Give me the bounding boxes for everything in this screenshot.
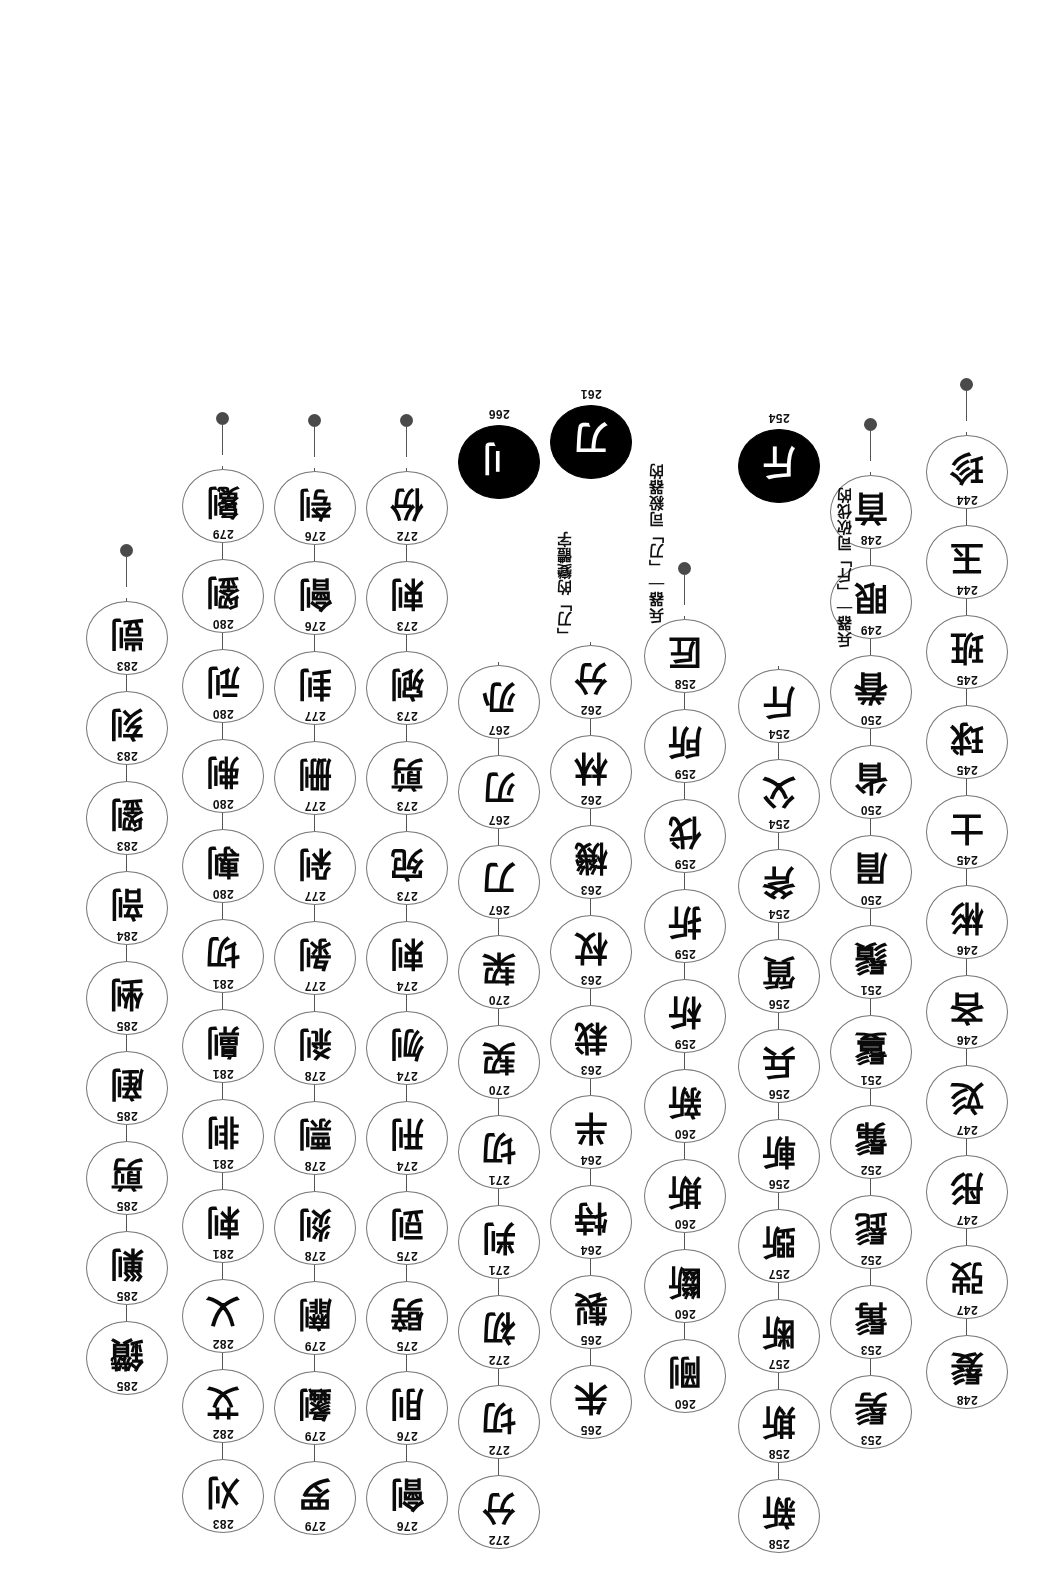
glyph-node[interactable]: 244珍 (926, 435, 1008, 509)
glyph-node[interactable]: 259析 (644, 979, 726, 1053)
glyph-node[interactable]: 285鑽 (86, 1321, 168, 1395)
glyph-node[interactable]: 254斤 (738, 669, 820, 743)
glyph-node[interactable]: 260剛 (644, 1339, 726, 1413)
glyph-node[interactable]: 253髣 (830, 1375, 912, 1449)
glyph-node[interactable]: 275剅 (366, 1191, 448, 1265)
glyph-node[interactable]: 250省 (830, 745, 912, 819)
glyph-node[interactable]: 252髴 (830, 1105, 912, 1179)
glyph-node[interactable]: 252髭 (830, 1195, 912, 1269)
glyph-node[interactable]: 272初 (458, 1295, 540, 1369)
glyph-node[interactable]: 273剌 (366, 561, 448, 635)
glyph-node[interactable]: 271切 (458, 1115, 540, 1189)
glyph-node[interactable]: 283剴 (86, 601, 168, 675)
glyph-node[interactable]: 280刜 (182, 739, 264, 813)
glyph-node[interactable]: 273宛 (366, 831, 448, 905)
glyph-node[interactable]: 257斲 (738, 1209, 820, 1283)
glyph-node[interactable]: 277刲 (274, 651, 356, 725)
glyph-node[interactable]: 277剝 (274, 921, 356, 995)
glyph-node[interactable]: 256斬 (738, 1119, 820, 1193)
seal-root-node[interactable]: 刂266 (458, 425, 540, 499)
glyph-node[interactable]: 276刳 (274, 471, 356, 545)
glyph-node[interactable]: 267刀 (458, 845, 540, 919)
glyph-node[interactable]: 245班 (926, 615, 1008, 689)
glyph-node[interactable]: 281剕 (182, 1099, 264, 1173)
glyph-node[interactable]: 274剌 (366, 921, 448, 995)
glyph-node[interactable]: 285剉 (86, 961, 168, 1035)
glyph-node[interactable]: 263杖 (550, 915, 632, 989)
glyph-node[interactable]: 280劉 (182, 559, 264, 633)
glyph-node[interactable]: 279劙 (274, 1371, 356, 1445)
glyph-node[interactable]: 247彤 (926, 1155, 1008, 1229)
glyph-node[interactable]: 277剁 (274, 831, 356, 905)
glyph-node[interactable]: 254父 (738, 759, 820, 833)
glyph-node[interactable]: 264特 (550, 1185, 632, 1259)
glyph-node[interactable]: 276劊 (274, 561, 356, 635)
glyph-node[interactable]: 263機 (550, 825, 632, 899)
glyph-node[interactable]: 272分 (458, 1475, 540, 1549)
glyph-node[interactable]: 247彣 (926, 1065, 1008, 1139)
glyph-node[interactable]: 263栽 (550, 1005, 632, 1079)
glyph-node[interactable]: 265朱 (550, 1365, 632, 1439)
glyph-node[interactable]: 247弢 (926, 1245, 1008, 1319)
glyph-node[interactable]: 272切 (458, 1385, 540, 1459)
glyph-node[interactable]: 283劉 (86, 781, 168, 855)
glyph-node[interactable]: 277删 (274, 741, 356, 815)
glyph-node[interactable]: 267刅 (458, 665, 540, 739)
glyph-node[interactable]: 270契 (458, 1025, 540, 1099)
glyph-node[interactable]: 274刎 (366, 1011, 448, 1085)
glyph-node[interactable]: 278剎 (274, 1011, 356, 1085)
glyph-node[interactable]: 285剪 (86, 1141, 168, 1215)
seal-root-node[interactable]: 斤254 (738, 429, 820, 503)
glyph-node[interactable]: 260斷 (644, 1249, 726, 1323)
glyph-node[interactable]: 256質 (738, 939, 820, 1013)
glyph-node[interactable]: 270栔 (458, 935, 540, 1009)
glyph-node[interactable]: 258斯 (738, 1389, 820, 1463)
glyph-node[interactable]: 258匠 (644, 619, 726, 693)
glyph-node[interactable]: 262林 (550, 735, 632, 809)
glyph-node[interactable]: 276劊 (366, 1461, 448, 1535)
glyph-node[interactable]: 250眷 (830, 655, 912, 729)
glyph-node[interactable]: 278剡 (274, 1191, 356, 1265)
glyph-node[interactable]: 275劈 (366, 1281, 448, 1355)
glyph-node[interactable]: 271判 (458, 1205, 540, 1279)
glyph-node[interactable]: 273剪 (366, 741, 448, 815)
glyph-node[interactable]: 276刖 (366, 1371, 448, 1445)
glyph-node[interactable]: 274刑 (366, 1101, 448, 1175)
glyph-node[interactable]: 245球 (926, 705, 1008, 779)
glyph-node[interactable]: 279劘 (274, 1281, 356, 1355)
glyph-node[interactable]: 278剽 (274, 1101, 356, 1175)
glyph-node[interactable]: 282艾 (182, 1369, 264, 1443)
glyph-node[interactable]: 279罗 (274, 1461, 356, 1535)
glyph-node[interactable]: 265製 (550, 1275, 632, 1349)
glyph-node[interactable]: 259折 (644, 889, 726, 963)
glyph-node[interactable]: 254斧 (738, 849, 820, 923)
glyph-node[interactable]: 279劖 (182, 469, 264, 543)
glyph-node[interactable]: 248髮 (926, 1335, 1008, 1409)
glyph-node[interactable]: 280剸 (182, 829, 264, 903)
glyph-node[interactable]: 272份 (366, 471, 448, 545)
glyph-node[interactable]: 273剜 (366, 651, 448, 725)
glyph-node[interactable]: 250眉 (830, 835, 912, 909)
glyph-node[interactable]: 259所 (644, 709, 726, 783)
glyph-node[interactable]: 281剌 (182, 1189, 264, 1263)
glyph-node[interactable]: 245士 (926, 795, 1008, 869)
glyph-node[interactable]: 285剿 (86, 1231, 168, 1305)
glyph-node[interactable]: 264半 (550, 1095, 632, 1169)
glyph-node[interactable]: 280刓 (182, 649, 264, 723)
glyph-node[interactable]: 258新 (738, 1479, 820, 1553)
glyph-node[interactable]: 244玉 (926, 525, 1008, 599)
glyph-node[interactable]: 267刃 (458, 755, 540, 829)
glyph-node[interactable]: 259伐 (644, 799, 726, 873)
glyph-node[interactable]: 281劓 (182, 1009, 264, 1083)
glyph-node[interactable]: 283刻 (86, 691, 168, 765)
glyph-node[interactable]: 257断 (738, 1299, 820, 1373)
glyph-node[interactable]: 281切 (182, 919, 264, 993)
glyph-node[interactable]: 246吝 (926, 975, 1008, 1049)
glyph-node[interactable]: 262分 (550, 645, 632, 719)
glyph-node[interactable]: 251鬚 (830, 925, 912, 999)
glyph-node[interactable]: 284剖 (86, 871, 168, 945)
glyph-node[interactable]: 285剷 (86, 1051, 168, 1125)
seal-root-node[interactable]: 刀261 (550, 405, 632, 479)
glyph-node[interactable]: 256兵 (738, 1029, 820, 1103)
glyph-node[interactable]: 282乂 (182, 1279, 264, 1353)
